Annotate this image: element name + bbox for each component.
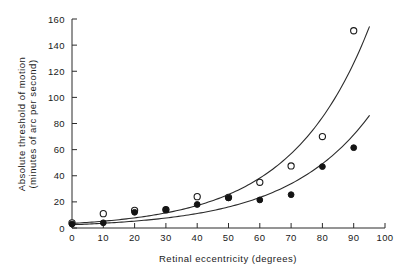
point-filled-circles-0	[69, 221, 75, 227]
figure-container: 0102030405060708090100 02040608010012014…	[0, 0, 411, 274]
y-axis-label-line-1: Absolute threshold of motion	[16, 57, 27, 191]
scatter-plot: 0102030405060708090100 02040608010012014…	[0, 0, 411, 274]
y-tick-label-40: 40	[54, 170, 65, 181]
x-tick-label-20: 20	[129, 232, 140, 243]
x-tick-label-0: 0	[69, 232, 75, 243]
y-tick-label-140: 140	[48, 40, 65, 51]
point-filled-circles-10	[100, 220, 106, 226]
point-open-circles-80	[319, 133, 325, 139]
point-filled-circles-40	[194, 202, 200, 208]
y-tick-label-80: 80	[54, 118, 65, 129]
x-tick-label-100: 100	[376, 232, 393, 243]
point-open-circles-90	[351, 28, 357, 34]
point-filled-circles-50	[226, 195, 232, 201]
y-axis-label-line-2: (minutes of arc per second)	[27, 59, 38, 188]
x-tick-label-60: 60	[254, 232, 265, 243]
point-filled-circles-60	[257, 197, 263, 203]
y-tick-label-120: 120	[48, 66, 65, 77]
y-tick-label-100: 100	[48, 92, 65, 103]
x-tick-label-80: 80	[317, 232, 328, 243]
x-tick-label-40: 40	[192, 232, 203, 243]
x-tick-label-10: 10	[98, 232, 109, 243]
x-axis-label: Retinal eccentricity (degrees)	[159, 253, 297, 264]
point-filled-circles-90	[351, 145, 357, 151]
point-open-circles-10	[100, 211, 106, 217]
x-tick-label-70: 70	[285, 232, 296, 243]
y-tick-label-0: 0	[59, 223, 65, 234]
point-filled-circles-30	[163, 207, 169, 213]
point-open-circles-60	[257, 179, 263, 185]
point-filled-circles-80	[320, 164, 326, 170]
point-open-circles-40	[194, 194, 200, 200]
point-filled-circles-70	[288, 192, 294, 198]
point-filled-circles-20	[132, 209, 138, 215]
x-tick-label-30: 30	[160, 232, 171, 243]
point-open-circles-70	[288, 163, 294, 169]
y-tick-label-160: 160	[48, 14, 65, 25]
x-tick-label-50: 50	[223, 232, 234, 243]
y-tick-label-20: 20	[54, 196, 65, 207]
y-tick-label-60: 60	[54, 144, 65, 155]
x-tick-label-90: 90	[348, 232, 359, 243]
